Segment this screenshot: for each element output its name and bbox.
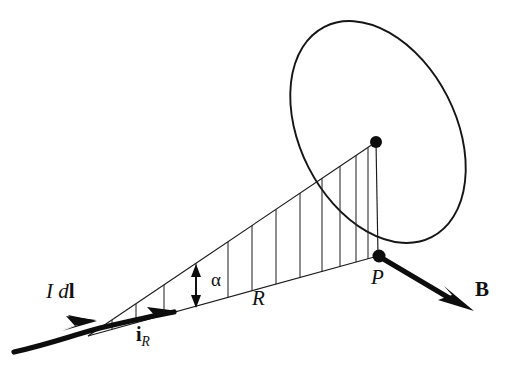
label-unit-vector: iR	[136, 323, 151, 349]
alpha-measure-arrow	[191, 264, 201, 308]
label-i-subscript: R	[141, 334, 151, 349]
alpha-arrowhead-down	[191, 295, 201, 308]
wedge-hatching	[112, 130, 368, 360]
label-distance-R: R	[251, 286, 265, 310]
wedge-upper-edge	[88, 142, 376, 336]
figure-root: I dl iR R α P B	[0, 0, 518, 377]
label-d: d	[58, 279, 69, 303]
label-field-B: B	[475, 277, 489, 301]
cone-wedge	[88, 130, 378, 360]
b-field-arrow-group	[380, 257, 474, 311]
label-alpha: α	[211, 269, 221, 290]
b-field-shaft	[380, 257, 456, 302]
biot-savart-diagram: I dl iR R α P B	[0, 0, 518, 377]
current-wire	[14, 312, 174, 352]
b-field-arrowhead	[438, 286, 474, 311]
cone-apex-dot	[370, 136, 382, 148]
wedge-lower-edge	[88, 256, 378, 336]
label-l-vector: l	[69, 279, 75, 303]
label-current-element: I dl	[45, 279, 75, 303]
label-point-P: P	[370, 265, 384, 289]
current-wire-group	[14, 307, 178, 352]
wedge-right-edge	[376, 142, 378, 256]
